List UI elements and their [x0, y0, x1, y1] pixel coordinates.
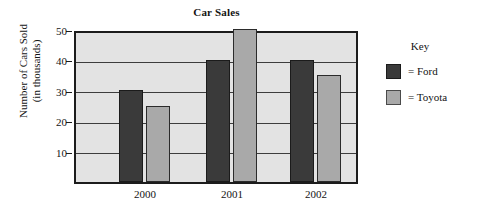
bar-toyota-2001: [233, 29, 257, 182]
legend-title: Key: [384, 40, 456, 53]
legend-item-ford: = Ford: [386, 64, 480, 79]
legend-label-ford: = Ford: [408, 65, 438, 78]
chart-figure: Car Sales Number of Cars Sold (in thousa…: [0, 0, 484, 220]
y-axis-label-line-1: Number of Cars Sold: [17, 0, 30, 151]
x-tick-label-2002: 2002: [281, 188, 351, 200]
y-tick-mark-10: [66, 153, 72, 154]
chart-title: Car Sales: [74, 6, 359, 19]
legend-swatch-ford-icon: [386, 64, 401, 79]
bar-ford-2000: [119, 90, 143, 182]
legend-swatch-toyota-icon: [386, 90, 401, 105]
y-tick-label-20: 20: [27, 117, 67, 128]
legend-label-toyota: = Toyota: [408, 91, 447, 104]
y-axis-label: Number of Cars Sold (in thousands): [17, 0, 43, 151]
bar-toyota-2000: [146, 106, 170, 183]
bar-ford-2001: [206, 60, 230, 182]
legend: Key = Ford = Toyota: [382, 40, 480, 105]
y-tick-label-30: 30: [27, 87, 67, 98]
x-tick-label-2000: 2000: [110, 188, 180, 200]
y-tick-mark-30: [66, 92, 72, 93]
y-tick-mark-40: [66, 61, 72, 62]
y-axis-label-line-2: (in thousands): [30, 0, 43, 151]
y-tick-label-10: 10: [27, 148, 67, 159]
bar-toyota-2002: [317, 75, 341, 182]
plot-area: [74, 31, 358, 184]
bar-ford-2002: [290, 60, 314, 182]
y-tick-mark-50: [66, 31, 72, 32]
y-tick-label-50: 50: [27, 26, 67, 37]
legend-item-toyota: = Toyota: [386, 90, 480, 105]
y-tick-label-40: 40: [27, 56, 67, 67]
y-tick-mark-20: [66, 122, 72, 123]
x-tick-label-2001: 2001: [197, 188, 267, 200]
